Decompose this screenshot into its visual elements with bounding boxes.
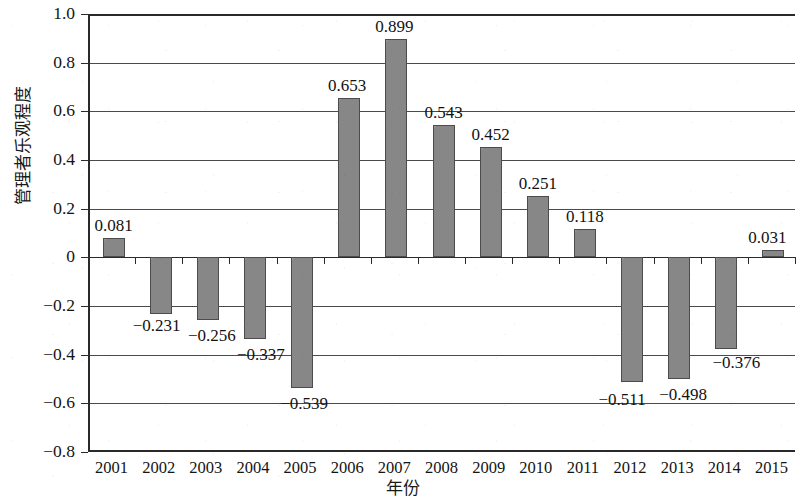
bar-value-label: 0.653 [316,76,378,96]
y-axis-tick [81,160,88,161]
x-axis-tick [701,257,702,264]
x-axis-tick [559,257,560,264]
x-axis-tick [88,257,89,264]
x-axis-tick [135,257,136,264]
y-axis-tick [81,63,88,64]
y-axis-tick [81,403,88,404]
bar-value-label: 0.118 [554,207,616,227]
bar-value-label: 0.081 [83,216,145,236]
x-axis-tick [606,257,607,264]
y-axis-tick [81,111,88,112]
y-axis-tick [81,257,88,258]
bar[interactable] [433,125,455,257]
bar[interactable] [150,257,172,313]
x-axis-tick [512,257,513,264]
bar-value-label: −0.337 [230,345,292,365]
bar-value-label: 0.251 [507,174,569,194]
y-axis-tick [81,306,88,307]
y-axis-tick-label: −0.6 [13,392,75,413]
x-axis-tick [748,257,749,264]
bar[interactable] [762,250,784,258]
y-axis-tick-label: −0.4 [13,344,75,365]
y-axis-tick-label: −0.2 [13,295,75,316]
bar[interactable] [338,98,360,257]
bar-value-label: 0.899 [363,17,425,37]
x-axis-tick [795,257,796,264]
y-axis-tick-label: 1.0 [13,3,75,24]
bar-value-label: 0.543 [413,103,475,123]
y-axis-tick-label: 0 [13,246,75,267]
bar-chart-figure: 管理者乐观程度 1.00.80.60.40.20−0.2−0.4−0.6−0.8… [0,0,805,504]
bar-value-label: −0.511 [591,390,653,410]
y-axis-tick [81,14,88,15]
bar[interactable] [621,257,643,381]
bar-value-label: 0.031 [736,228,798,248]
y-axis-tick [81,209,88,210]
bar[interactable] [385,39,407,258]
bar[interactable] [574,229,596,258]
x-axis-tick [371,257,372,264]
x-axis-tick [654,257,655,264]
bar[interactable] [244,257,266,339]
bar[interactable] [715,257,737,348]
plot-top-border [90,14,795,16]
y-axis-tick [81,355,88,356]
bar[interactable] [668,257,690,378]
bar-value-label: 0.452 [460,125,522,145]
x-axis-tick [465,257,466,264]
y-axis-tick-label: 0.4 [13,149,75,170]
y-axis-tick-label: −0.8 [13,441,75,462]
bar-value-label: −0.498 [652,385,714,405]
y-axis-tick-label: 0.6 [13,100,75,121]
bar[interactable] [480,147,502,257]
x-axis-tick [418,257,419,264]
bar[interactable] [527,196,549,257]
y-axis-tick-label: 0.2 [13,198,75,219]
x-axis-title: 年份 [0,474,805,499]
bar[interactable] [103,238,125,258]
x-axis-tick [277,257,278,264]
bar-value-label: −0.256 [181,326,243,346]
y-axis-tick [81,452,88,453]
gridline [90,63,795,64]
y-axis-tick-label: 0.8 [13,52,75,73]
x-axis-tick [182,257,183,264]
bar-value-label: −0.376 [705,353,767,373]
x-axis-tick [324,257,325,264]
bar-value-label: −0.231 [126,316,188,336]
bar-value-label: −0.539 [273,394,335,414]
x-axis-tick [229,257,230,264]
bar[interactable] [197,257,219,319]
bar[interactable] [291,257,313,388]
